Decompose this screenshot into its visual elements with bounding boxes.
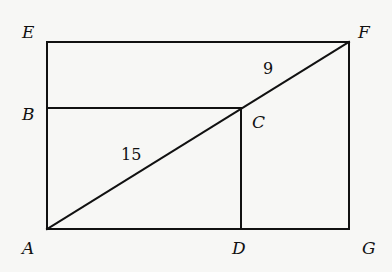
diagonal-AF (47, 42, 349, 229)
point-label-E: E (22, 24, 34, 41)
length-label-AC: 15 (121, 147, 141, 163)
geometry-diagram: E F B C A D G 9 15 (0, 0, 392, 272)
point-label-A: A (22, 240, 34, 257)
point-label-F: F (358, 24, 370, 41)
point-label-D: D (232, 240, 246, 257)
diagram-lines (0, 0, 392, 272)
point-label-C: C (252, 114, 265, 131)
point-label-G: G (362, 240, 376, 257)
length-label-CF: 9 (263, 61, 273, 77)
point-label-B: B (22, 106, 35, 123)
